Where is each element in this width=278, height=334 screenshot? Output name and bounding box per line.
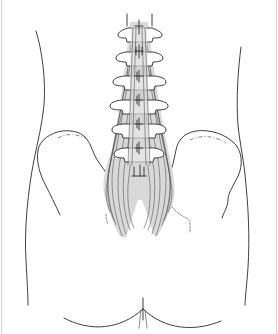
illustration-frame: [0, 0, 278, 334]
gluteal-cleft: [64, 298, 221, 328]
right-iliac-crest: [168, 131, 241, 218]
left-iliac-crest: [37, 131, 110, 215]
lower-back-anatomy-drawing: [0, 0, 278, 334]
